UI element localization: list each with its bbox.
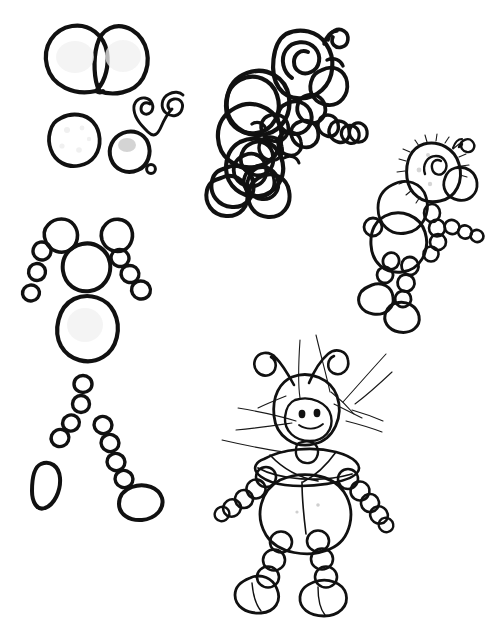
final-figure-eye-left (299, 410, 306, 418)
illustration-root (0, 0, 497, 619)
drawing-canvas (0, 0, 497, 619)
wing-center-dot (97, 83, 101, 87)
final-figure-eye-right (314, 409, 321, 417)
